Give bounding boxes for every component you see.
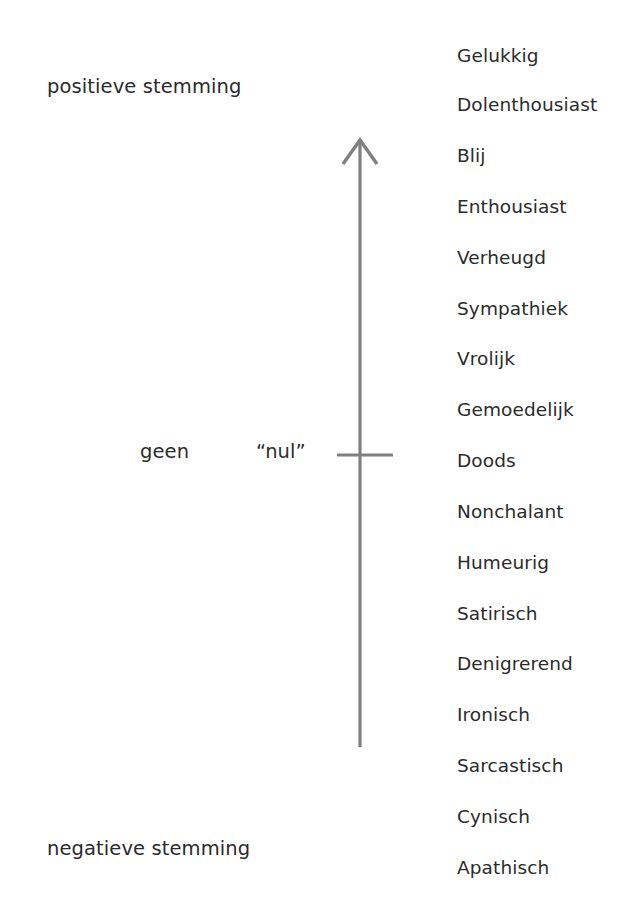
negative-pole-text: negatieve stemming	[47, 839, 250, 859]
mood-word-item: Vrolijk	[457, 350, 515, 369]
zero-left-label: geen	[140, 452, 189, 472]
mood-word-item: Verheugd	[457, 249, 546, 268]
mood-word-item: Humeurig	[457, 554, 549, 573]
positive-pole-label: positieve stemming	[47, 87, 241, 107]
mood-word-item: Gelukkig	[457, 47, 539, 66]
zero-quoted-text: “nul”	[256, 442, 306, 462]
mood-word-item: Doods	[457, 452, 516, 471]
zero-quoted-label: “nul”	[256, 452, 306, 472]
mood-word-item: Gemoedelijk	[457, 401, 574, 420]
mood-word-item: Apathisch	[457, 859, 549, 878]
mood-scale-figure: positieve stemming geen “nul” negatieve …	[0, 0, 638, 912]
mood-word-item: Ironisch	[457, 706, 530, 725]
mood-word-item: Dolenthousiast	[457, 96, 597, 115]
mood-word-item: Denigrerend	[457, 655, 573, 674]
negative-pole-label: negatieve stemming	[47, 849, 250, 869]
mood-word-item: Sarcastisch	[457, 757, 563, 776]
mood-word-item: Nonchalant	[457, 503, 564, 522]
mood-word-item: Cynisch	[457, 808, 530, 827]
zero-left-text: geen	[140, 442, 189, 462]
mood-word-item: Satirisch	[457, 605, 538, 624]
positive-pole-text: positieve stemming	[47, 77, 241, 97]
mood-word-item: Sympathiek	[457, 300, 568, 319]
mood-word-list: GelukkigDolenthousiastBlijEnthousiastVer…	[457, 0, 638, 912]
mood-word-item: Blij	[457, 147, 486, 166]
mood-word-item: Enthousiast	[457, 198, 567, 217]
